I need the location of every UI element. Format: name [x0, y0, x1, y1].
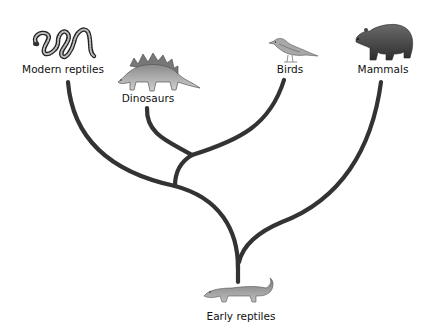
root-label-early-reptiles: Early reptiles [207, 310, 276, 322]
stegosaurus-icon [118, 53, 200, 91]
branch-dinosaur-bird-stem [175, 155, 192, 186]
bear-icon [356, 24, 413, 60]
snake-icon [33, 30, 94, 57]
branch-birds [192, 80, 284, 155]
bird-icon [269, 38, 318, 62]
branch-mammals [239, 82, 381, 262]
leaf-label-mammals: Mammals [358, 63, 409, 75]
leaf-label-birds: Birds [277, 63, 303, 75]
leaf-label-dinosaurs: Dinosaurs [122, 92, 174, 104]
branch-reptile-stem [175, 186, 238, 268]
leaf-label-modern-reptiles: Modern reptiles [22, 63, 104, 75]
phylogenetic-tree [0, 0, 436, 331]
branch-dinosaurs [147, 108, 192, 155]
tree-branches [68, 80, 381, 282]
